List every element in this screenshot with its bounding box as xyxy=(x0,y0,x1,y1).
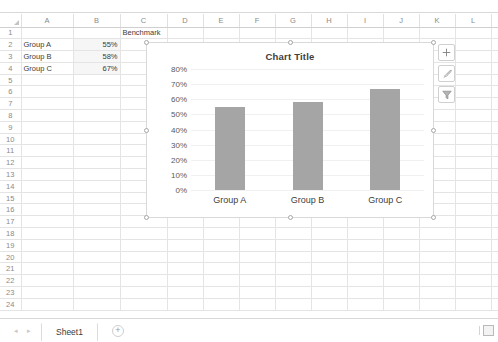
cell-j21[interactable] xyxy=(383,263,419,275)
cell-a6[interactable] xyxy=(21,86,73,98)
cell-a5[interactable] xyxy=(21,74,73,86)
cell-m3[interactable] xyxy=(491,51,498,63)
column-header-d[interactable]: D xyxy=(167,14,203,27)
horizontal-scrollbar[interactable] xyxy=(479,325,494,336)
resize-handle-bottom-right[interactable] xyxy=(431,215,436,220)
row-header-10[interactable]: 10 xyxy=(0,133,21,145)
column-header-c[interactable]: C xyxy=(120,14,167,27)
row-header-5[interactable]: 5 xyxy=(0,74,21,86)
cell-l9[interactable] xyxy=(455,121,491,133)
row-header-2[interactable]: 2 xyxy=(0,39,21,51)
cell-f22[interactable] xyxy=(239,275,275,287)
cell-m23[interactable] xyxy=(491,287,498,299)
cell-k24[interactable] xyxy=(419,298,455,310)
cell-h20[interactable] xyxy=(311,251,347,263)
cell-l21[interactable] xyxy=(455,263,491,275)
cell-m18[interactable] xyxy=(491,228,498,240)
cell-h18[interactable] xyxy=(311,228,347,240)
cell-g18[interactable] xyxy=(275,228,311,240)
cell-d20[interactable] xyxy=(167,251,203,263)
sheet-tab-sheet1[interactable]: Sheet1 xyxy=(41,323,98,341)
cell-i18[interactable] xyxy=(347,228,383,240)
cell-m21[interactable] xyxy=(491,263,498,275)
add-sheet-button[interactable]: + xyxy=(112,325,124,337)
cell-l19[interactable] xyxy=(455,239,491,251)
cell-d22[interactable] xyxy=(167,275,203,287)
cell-l24[interactable] xyxy=(455,298,491,310)
embedded-chart[interactable]: Chart Title 0%10%20%30%40%50%60%70%80% G… xyxy=(146,42,434,218)
cell-e19[interactable] xyxy=(203,239,239,251)
cell-i21[interactable] xyxy=(347,263,383,275)
cell-l14[interactable] xyxy=(455,180,491,192)
cell-l10[interactable] xyxy=(455,133,491,145)
cell-j1[interactable] xyxy=(383,27,419,39)
cell-e20[interactable] xyxy=(203,251,239,263)
row-header-17[interactable]: 17 xyxy=(0,216,21,228)
cell-a14[interactable] xyxy=(21,180,73,192)
cell-i1[interactable] xyxy=(347,27,383,39)
cell-b11[interactable] xyxy=(73,145,120,157)
row-header-19[interactable]: 19 xyxy=(0,239,21,251)
cell-k1[interactable] xyxy=(419,27,455,39)
cell-a1[interactable] xyxy=(21,27,73,39)
cell-c1[interactable]: Benchmark xyxy=(120,27,167,39)
cell-b23[interactable] xyxy=(73,287,120,299)
sheet-tab-bar[interactable]: ◂ ▸ Sheet1 + xyxy=(0,318,498,342)
cell-h19[interactable] xyxy=(311,239,347,251)
cell-l1[interactable] xyxy=(455,27,491,39)
resize-handle-top-right[interactable] xyxy=(431,40,436,45)
cell-l5[interactable] xyxy=(455,74,491,86)
cell-e21[interactable] xyxy=(203,263,239,275)
row-header-16[interactable]: 16 xyxy=(0,204,21,216)
cell-m2[interactable] xyxy=(491,39,498,51)
cell-m4[interactable] xyxy=(491,62,498,74)
cell-c18[interactable] xyxy=(120,228,167,240)
column-header-k[interactable]: K xyxy=(419,14,455,27)
cell-d21[interactable] xyxy=(167,263,203,275)
cell-m9[interactable] xyxy=(491,121,498,133)
cell-f19[interactable] xyxy=(239,239,275,251)
cell-c21[interactable] xyxy=(120,263,167,275)
cell-k23[interactable] xyxy=(419,287,455,299)
sheet-nav-arrows[interactable]: ◂ ▸ xyxy=(14,327,31,335)
cell-m20[interactable] xyxy=(491,251,498,263)
cell-g21[interactable] xyxy=(275,263,311,275)
cell-d24[interactable] xyxy=(167,298,203,310)
row-header-23[interactable]: 23 xyxy=(0,287,21,299)
row-header-11[interactable]: 11 xyxy=(0,145,21,157)
cell-l2[interactable] xyxy=(455,39,491,51)
cell-l7[interactable] xyxy=(455,98,491,110)
cell-m24[interactable] xyxy=(491,298,498,310)
row-header-4[interactable]: 4 xyxy=(0,62,21,74)
cell-i19[interactable] xyxy=(347,239,383,251)
cell-l22[interactable] xyxy=(455,275,491,287)
cell-j18[interactable] xyxy=(383,228,419,240)
cell-a10[interactable] xyxy=(21,133,73,145)
cell-b18[interactable] xyxy=(73,228,120,240)
cell-f21[interactable] xyxy=(239,263,275,275)
resize-handle-top-left[interactable] xyxy=(144,40,149,45)
chart-styles-button[interactable] xyxy=(438,65,455,82)
cell-l13[interactable] xyxy=(455,169,491,181)
cell-h1[interactable] xyxy=(311,27,347,39)
row-header-6[interactable]: 6 xyxy=(0,86,21,98)
resize-handle-bottom-center[interactable] xyxy=(288,215,293,220)
cell-g19[interactable] xyxy=(275,239,311,251)
chart-title[interactable]: Chart Title xyxy=(147,51,433,62)
row-header-21[interactable]: 21 xyxy=(0,263,21,275)
column-header-a[interactable]: A xyxy=(21,14,73,27)
cell-c22[interactable] xyxy=(120,275,167,287)
cell-m6[interactable] xyxy=(491,86,498,98)
cell-g20[interactable] xyxy=(275,251,311,263)
cell-e23[interactable] xyxy=(203,287,239,299)
cell-g1[interactable] xyxy=(275,27,311,39)
row-header-24[interactable]: 24 xyxy=(0,298,21,310)
cell-j23[interactable] xyxy=(383,287,419,299)
cell-b8[interactable] xyxy=(73,110,120,122)
cell-m7[interactable] xyxy=(491,98,498,110)
cell-d1[interactable] xyxy=(167,27,203,39)
row-header-3[interactable]: 3 xyxy=(0,51,21,63)
cell-l11[interactable] xyxy=(455,145,491,157)
cell-l12[interactable] xyxy=(455,157,491,169)
row-header-8[interactable]: 8 xyxy=(0,110,21,122)
